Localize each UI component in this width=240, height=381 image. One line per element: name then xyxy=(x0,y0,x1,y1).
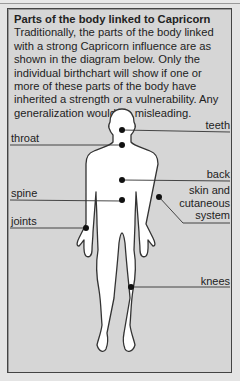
spine-marker xyxy=(119,197,125,203)
throat-marker xyxy=(119,142,125,148)
label-skin: skin and cutaneous system xyxy=(179,184,230,222)
back-marker xyxy=(119,177,125,183)
label-back: back xyxy=(207,168,230,180)
label-skin-line2: cutaneous xyxy=(179,197,230,210)
skin-marker xyxy=(156,194,162,200)
label-skin-line3: system xyxy=(179,209,230,222)
label-skin-line1: skin and xyxy=(179,184,230,197)
label-throat: throat xyxy=(11,132,39,144)
label-joints: joints xyxy=(11,215,37,227)
teeth-marker xyxy=(119,127,125,133)
joints-marker xyxy=(83,225,89,231)
knees-marker xyxy=(128,284,134,290)
label-knees: knees xyxy=(201,275,230,287)
label-spine: spine xyxy=(11,187,37,199)
label-teeth: teeth xyxy=(206,119,230,131)
